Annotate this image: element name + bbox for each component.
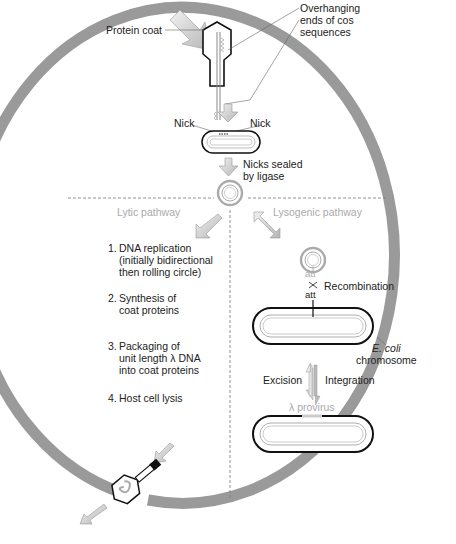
down-arrow-ligase-icon: [219, 158, 238, 176]
att-bacterial-label: att: [305, 289, 316, 301]
integration-label: Integration: [325, 374, 375, 386]
lytic-pathway-heading: Lytic pathway: [117, 206, 180, 218]
lytic-step-1: 1.DNA replication (initially bidirection…: [108, 242, 213, 278]
overhanging-label-line2: ends of cos: [300, 14, 354, 26]
lytic-step-2: 2.Synthesis of coat proteins: [108, 292, 179, 316]
excision-label: Excision: [263, 374, 302, 386]
lysogenic-pathway-heading: Lysogenic pathway: [273, 206, 362, 218]
circular-lambda-dna: [218, 181, 242, 205]
lambda-life-cycle-diagram: Protein coat Overhanging ends of cos seq…: [0, 0, 456, 544]
exit-arrow-icon: [80, 504, 107, 524]
ecoli-chromosome: [253, 300, 373, 344]
att-phage-label: att: [305, 268, 316, 280]
recombination-cross-icon: [309, 282, 317, 288]
overhanging-label-line3: sequences: [300, 26, 351, 38]
nicked-circular-dna: [202, 131, 260, 153]
nicks-sealed-label-line1: Nicks sealed: [243, 158, 303, 170]
nick-right-label: Nick: [250, 117, 270, 129]
overhanging-label-line1: Overhanging: [300, 2, 360, 14]
lytic-step-3: 3.Packaging of unit length λ DNA into co…: [108, 340, 201, 376]
lytic-arrow-icon: [196, 214, 222, 238]
lytic-step-4: 4.Host cell lysis: [108, 392, 183, 404]
nick-left-label: Nick: [174, 117, 194, 129]
down-arrow-icon: [218, 104, 238, 122]
protein-coat-label: Protein coat: [106, 24, 162, 36]
chromosome-label: chromosome: [356, 354, 417, 366]
excision-integration-arrows-icon: [306, 363, 320, 405]
nicks-sealed-label-line2: by ligase: [243, 170, 284, 182]
provirus-label: λ provirus: [289, 401, 335, 413]
ecoli-label: E. coli: [372, 342, 401, 354]
chromosome-with-provirus: [253, 416, 373, 452]
diagram-graphics: [0, 0, 456, 544]
recombination-label: Recombination: [324, 280, 394, 292]
